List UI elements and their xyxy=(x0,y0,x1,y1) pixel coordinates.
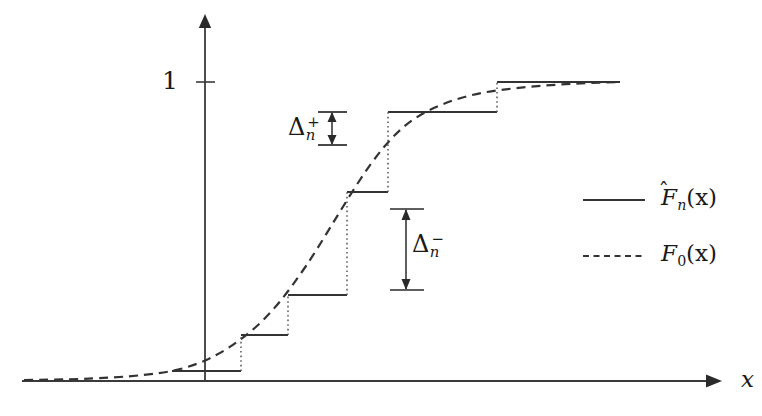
legend-0-subscript: n xyxy=(677,197,686,213)
legend-0-symbol-wrap: F̂ xyxy=(661,186,677,209)
delta-minus-symbol: Δ xyxy=(412,232,429,256)
y-axis-arrowhead xyxy=(199,14,211,28)
legend-label-empirical-cdf: F̂n(x) xyxy=(661,186,717,209)
delta-minus-superscript: − xyxy=(432,230,444,248)
delta-minus-label: Δn− xyxy=(412,232,451,256)
delta-plus-symbol: Δ xyxy=(288,115,305,139)
legend-0-argument: (x) xyxy=(686,184,717,210)
x-axis-arrowhead xyxy=(706,375,722,388)
legend-1-argument: (x) xyxy=(686,240,717,266)
delta-plus-arrowhead-down xyxy=(328,135,337,145)
delta-minus-arrowhead-up xyxy=(402,209,411,220)
x-axis-label: x xyxy=(741,368,754,391)
legend-swatches xyxy=(583,200,645,256)
series-fn-step xyxy=(172,82,620,371)
kolmogorov-smirnov-figure: 1 x Δn+ Δn− F̂n(x) F0(x) xyxy=(0,0,762,416)
legend-1-symbol: F xyxy=(661,240,677,266)
legend-0-symbol: F xyxy=(661,184,677,210)
legend-label-theoretical-cdf: F0(x) xyxy=(661,242,717,265)
delta-plus-superscript: + xyxy=(307,113,319,131)
plot-canvas xyxy=(0,0,762,416)
delta-minus-arrowhead-down xyxy=(402,279,411,290)
delta-plus-label: Δn+ xyxy=(288,115,327,139)
delta-plus-arrowhead-up xyxy=(328,112,337,122)
y-axis-tick-label: 1 xyxy=(162,68,178,93)
legend-1-subscript: 0 xyxy=(677,253,686,269)
